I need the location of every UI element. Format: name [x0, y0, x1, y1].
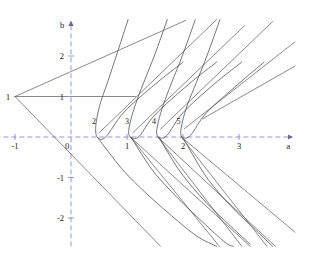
- figure-canvas: -1012321-1-2ab12345: [0, 0, 311, 270]
- series-ray-up-5: [203, 66, 295, 119]
- series-cusp-5-curve: [181, 20, 264, 139]
- series-ray-up-2: [133, 26, 245, 133]
- y-tick-label: -2: [57, 213, 64, 223]
- series-ray-down-from-1a: [130, 137, 219, 246]
- series-cusp-2-tail: [98, 138, 217, 247]
- series-cusp-3-curve: [129, 20, 217, 139]
- series-ray-up-3: [161, 22, 273, 129]
- x-tick-label: 1: [125, 141, 129, 151]
- plot-svg: -1012321-1-2ab12345: [0, 0, 311, 270]
- series-ray-up-4: [184, 42, 295, 129]
- series-cusp-2-curve: [96, 20, 183, 140]
- axes-layer: [0, 22, 292, 247]
- x-tick-label: 3: [237, 141, 241, 151]
- series-ray-down-from-1b: [130, 137, 250, 246]
- origin-label: 0: [65, 141, 69, 151]
- series-ray-down-from-2a: [158, 137, 242, 246]
- curve-label-3: 3: [125, 117, 129, 126]
- series-ray-down-from-2b: [158, 137, 276, 246]
- series-ray-down-from-3a: [181, 137, 267, 246]
- curve-label-2: 2: [92, 117, 96, 126]
- x-axis-name: a: [286, 141, 290, 151]
- curve-label-4: 4: [152, 117, 156, 126]
- x-tick-label: 2: [181, 141, 185, 151]
- y-tick-label: -1: [57, 173, 64, 183]
- curve-label-5: 5: [177, 117, 181, 126]
- y-axis-name: b: [60, 20, 64, 30]
- series-vertex-lower-ray: [15, 97, 161, 247]
- vertex-label: 1: [6, 92, 11, 102]
- series-vertex-upper-ray: [15, 20, 186, 96]
- y-tick-label: 1: [60, 92, 64, 102]
- y-tick-label: 2: [60, 51, 64, 61]
- x-tick-label: -1: [11, 141, 18, 151]
